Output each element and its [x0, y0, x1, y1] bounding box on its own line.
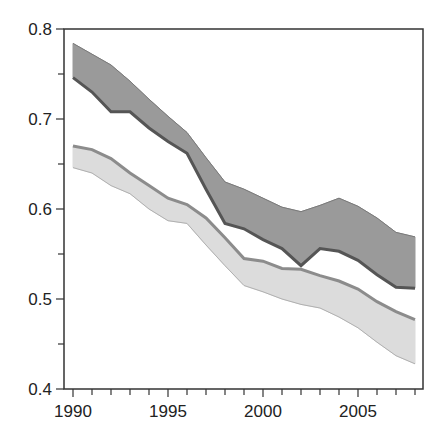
x-tick-label: 2005	[339, 402, 377, 421]
y-axis: 0.40.50.60.70.8	[28, 20, 64, 399]
y-tick-label: 0.4	[28, 380, 52, 399]
x-tick-label: 2000	[244, 402, 282, 421]
y-tick-label: 0.8	[28, 20, 52, 39]
x-axis: 1990199520002005	[54, 389, 415, 421]
y-tick-label: 0.7	[28, 110, 52, 129]
band-upper	[73, 43, 415, 288]
y-tick-label: 0.6	[28, 200, 52, 219]
x-tick-label: 1995	[149, 402, 187, 421]
chart: 0.40.50.60.70.8 1990199520002005	[0, 0, 440, 439]
y-tick-label: 0.5	[28, 290, 52, 309]
data-bands	[73, 43, 415, 363]
x-tick-label: 1990	[54, 402, 92, 421]
